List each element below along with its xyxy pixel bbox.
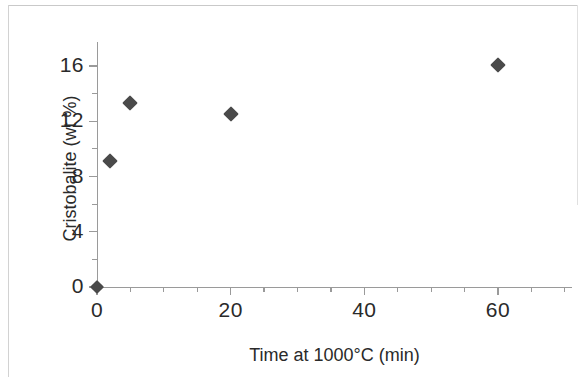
x-tick-label: 40 — [334, 298, 394, 322]
y-tick-major — [89, 121, 97, 122]
y-tick-major — [89, 65, 97, 66]
data-point-marker — [490, 57, 506, 73]
x-tick-major — [230, 287, 231, 295]
x-tick-label: 60 — [468, 298, 528, 322]
x-tick-minor — [531, 287, 532, 292]
x-tick-minor — [330, 287, 331, 292]
x-tick-major — [497, 287, 498, 295]
y-tick-minor — [92, 259, 97, 260]
y-tick-minor — [92, 93, 97, 94]
y-tick-major — [89, 176, 97, 177]
x-tick-minor — [163, 287, 164, 292]
x-tick-major — [364, 287, 365, 295]
x-tick-label: 20 — [201, 298, 261, 322]
data-point-marker — [223, 107, 239, 123]
x-tick-minor — [397, 287, 398, 292]
y-axis-title: Cristobalite (wt %) — [60, 39, 81, 299]
x-tick-minor — [263, 287, 264, 292]
y-axis-line — [97, 42, 98, 288]
y-tick-major — [89, 231, 97, 232]
y-tick-minor — [92, 148, 97, 149]
data-point-marker — [123, 96, 139, 112]
x-tick-minor — [464, 287, 465, 292]
x-tick-minor — [197, 287, 198, 292]
x-tick-minor — [431, 287, 432, 292]
x-tick-minor — [564, 287, 565, 292]
x-axis-title: Time at 1000°C (min) — [97, 345, 572, 366]
scatter-plot: 0481216 0204060 Cristobalite (wt %) Time… — [0, 0, 582, 382]
x-tick-label: 0 — [67, 298, 127, 322]
figure-frame: 0481216 0204060 Cristobalite (wt %) Time… — [0, 0, 582, 382]
y-tick-minor — [92, 204, 97, 205]
data-point-marker — [90, 280, 104, 294]
data-point-marker — [103, 154, 119, 170]
x-tick-minor — [297, 287, 298, 292]
x-tick-minor — [130, 287, 131, 292]
x-axis-line — [97, 287, 572, 288]
